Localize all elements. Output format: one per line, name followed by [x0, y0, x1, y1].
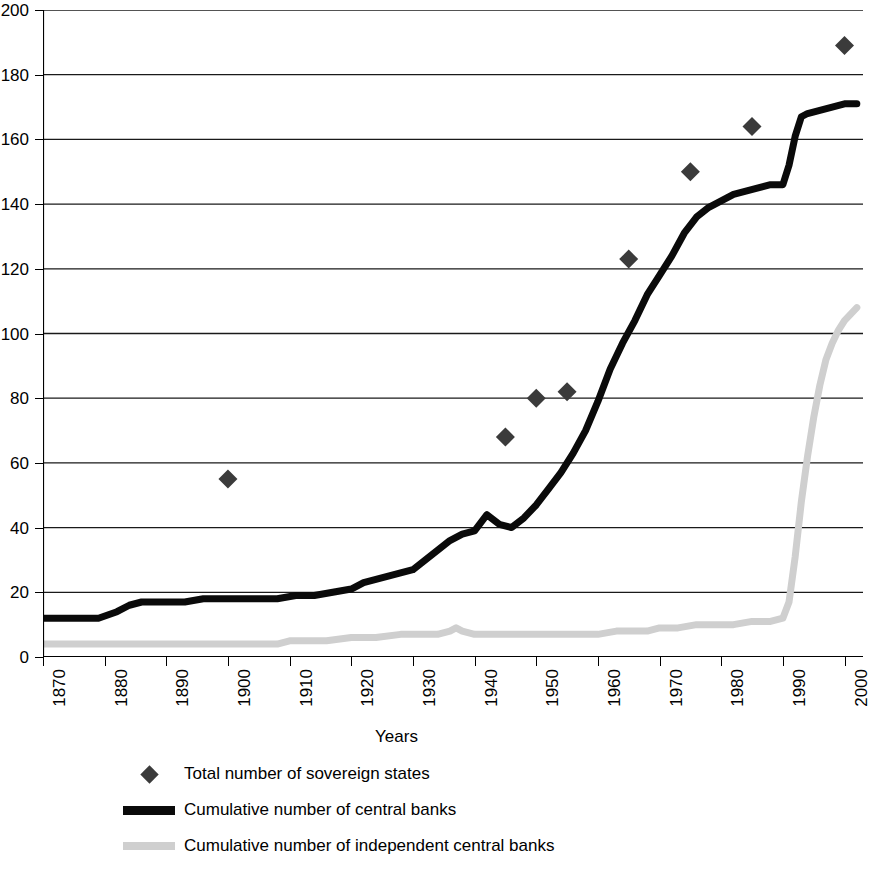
x-tick-label: 1930 — [421, 669, 438, 707]
y-tick-mark — [35, 334, 43, 335]
y-tick-label: 80 — [10, 390, 29, 407]
x-tick-mark — [290, 657, 291, 666]
gray-line-icon — [118, 842, 180, 850]
x-tick-label: 1920 — [359, 669, 376, 707]
y-tick-mark — [35, 463, 43, 464]
data-point-marker — [619, 250, 638, 269]
data-point-marker — [527, 389, 546, 408]
x-tick-mark — [721, 657, 722, 666]
x-tick-label: 1880 — [113, 669, 130, 707]
x-tick-mark — [783, 657, 784, 666]
x-tick-mark — [166, 657, 167, 666]
y-tick-mark — [35, 75, 43, 76]
legend-label-central-banks: Cumulative number of central banks — [180, 800, 456, 820]
y-tick-label: 20 — [10, 584, 29, 601]
y-tick-label: 100 — [1, 325, 29, 342]
data-line — [43, 104, 857, 618]
x-tick-label: 1890 — [174, 669, 191, 707]
y-tick-label: 40 — [10, 519, 29, 536]
y-tick-label: 180 — [1, 66, 29, 83]
x-tick-mark — [43, 657, 44, 666]
data-point-marker — [496, 428, 515, 447]
gridlines — [43, 10, 863, 592]
y-tick-mark — [35, 204, 43, 205]
legend-item-sovereign-states: Total number of sovereign states — [118, 756, 838, 792]
series-central-banks — [43, 104, 857, 618]
x-tick-label: 1980 — [729, 669, 746, 707]
y-tick-label: 200 — [1, 2, 29, 19]
y-tick-label: 60 — [10, 454, 29, 471]
legend-item-independent-central-banks: Cumulative number of independent central… — [118, 828, 838, 864]
plot-canvas — [43, 10, 863, 657]
y-tick-mark — [35, 269, 43, 270]
legend-label-sovereign-states: Total number of sovereign states — [180, 764, 430, 784]
x-tick-label: 1990 — [791, 669, 808, 707]
x-axis-title: Years — [0, 727, 863, 747]
chart-legend: Total number of sovereign states Cumulat… — [118, 756, 838, 864]
x-tick-label: 1960 — [606, 669, 623, 707]
x-tick-label: 2000 — [853, 669, 870, 707]
legend-label-independent-central-banks: Cumulative number of independent central… — [180, 836, 554, 856]
y-tick-mark — [35, 592, 43, 593]
x-tick-label: 1900 — [236, 669, 253, 707]
series-sovereign-states — [218, 36, 854, 488]
x-tick-mark — [660, 657, 661, 666]
y-tick-mark — [35, 398, 43, 399]
x-tick-mark — [351, 657, 352, 666]
x-tick-mark — [413, 657, 414, 666]
x-tick-label: 1970 — [668, 669, 685, 707]
x-tick-label: 1950 — [544, 669, 561, 707]
data-point-marker — [681, 162, 700, 181]
legend-item-central-banks: Cumulative number of central banks — [118, 792, 838, 828]
data-point-marker — [743, 117, 762, 136]
x-tick-mark — [228, 657, 229, 666]
x-axis-title-label: Years — [375, 727, 418, 746]
y-tick-label: 140 — [1, 196, 29, 213]
y-tick-label: 160 — [1, 131, 29, 148]
x-tick-label: 1910 — [298, 669, 315, 707]
plot-area — [43, 10, 863, 657]
x-tick-label: 1940 — [483, 669, 500, 707]
x-tick-mark — [845, 657, 846, 666]
data-line — [43, 308, 857, 644]
x-tick-label: 1870 — [51, 669, 68, 707]
series-independent-central-banks — [43, 308, 857, 644]
y-tick-mark — [35, 528, 43, 529]
data-point-marker — [218, 470, 237, 489]
x-tick-mark — [598, 657, 599, 666]
x-tick-mark — [105, 657, 106, 666]
data-point-marker — [835, 36, 854, 55]
y-axis: 020406080100120140160180200 — [0, 0, 43, 670]
y-tick-mark — [35, 139, 43, 140]
x-tick-mark — [475, 657, 476, 666]
solid-black-line-icon — [118, 806, 180, 815]
diamond-marker-icon — [118, 768, 180, 781]
x-tick-mark — [536, 657, 537, 666]
y-tick-label: 120 — [1, 260, 29, 277]
y-tick-mark — [35, 10, 43, 11]
